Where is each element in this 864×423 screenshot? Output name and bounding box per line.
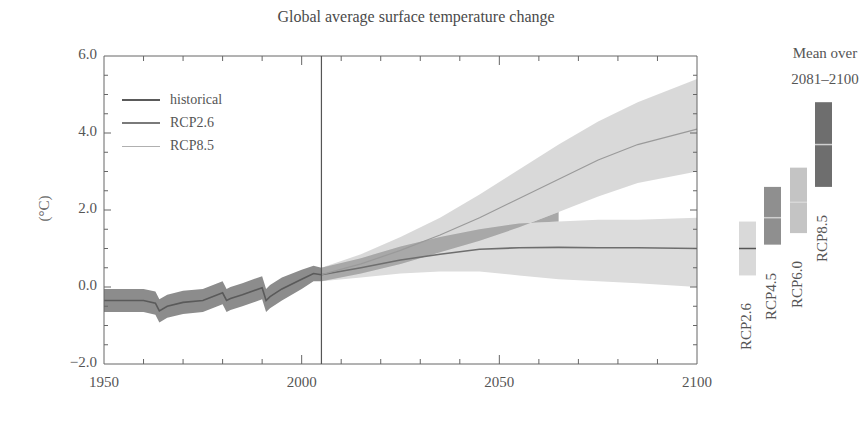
band-historical [104, 266, 321, 323]
legend-swatch-rcp85 [122, 146, 160, 147]
mean-panel-title-line2: 2081–2100 [785, 66, 864, 92]
mean-bar-rcp60 [790, 168, 807, 233]
legend-label-rcp26: RCP2.6 [170, 115, 214, 131]
legend-item-rcp85: RCP8.5 [122, 138, 214, 154]
bar-label-rcp60: RCP6.0 [789, 261, 806, 308]
bar-label-rcp85: RCP8.5 [814, 215, 831, 262]
legend-label-historical: historical [170, 92, 222, 108]
legend-label-rcp85: RCP8.5 [170, 138, 214, 154]
y-tick-label: −2.0 [47, 354, 97, 371]
chart-title: Global average surface temperature chang… [196, 8, 636, 26]
bar-label-rcp26: RCP2.6 [738, 303, 755, 350]
legend-swatch-rcp26 [122, 122, 160, 124]
legend-item-rcp26: RCP2.6 [122, 115, 214, 131]
mean-panel-title-line1: Mean over [785, 40, 864, 66]
x-tick-label: 1950 [74, 374, 134, 391]
legend-item-historical: historical [122, 92, 222, 108]
legend-swatch-historical [122, 99, 160, 101]
x-tick-label: 2050 [469, 374, 529, 391]
mean-bar-rcp45 [764, 187, 781, 245]
x-tick-label: 2100 [667, 374, 727, 391]
temperature-chart [0, 0, 864, 423]
y-tick-label: 0.0 [47, 277, 97, 294]
bar-label-rcp45: RCP4.5 [763, 273, 780, 320]
x-tick-label: 2000 [272, 374, 332, 391]
y-tick-label: 2.0 [47, 200, 97, 217]
y-tick-label: 6.0 [47, 46, 97, 63]
y-tick-label: 4.0 [47, 123, 97, 140]
